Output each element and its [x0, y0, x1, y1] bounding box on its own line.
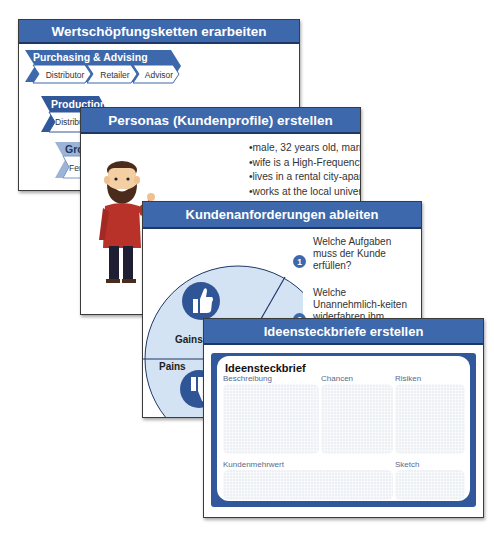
chain-item-distributor: Distributor: [41, 67, 89, 83]
idea-profile-card: Ideensteckbrief Beschreibung Chancen Ris…: [211, 353, 476, 507]
field-label-kundenmehrwert: Kundenmehrwert: [223, 460, 284, 469]
gains-label: Gains: [175, 334, 203, 345]
bullet: male, 32 years old, married, no children: [249, 141, 356, 156]
field-chancen[interactable]: [321, 384, 393, 454]
chain-title-purchasing: Purchasing & Advising: [25, 50, 148, 64]
slide-title: Kundenanforderungen ableiten: [143, 202, 421, 229]
bullet: works at the local univerity: makes a po…: [249, 185, 356, 200]
slide-title: Ideensteckbriefe erstellen: [204, 319, 483, 345]
card-title: Ideensteckbrief: [225, 362, 306, 374]
slide-title: Personas (Kundenprofile) erstellen: [81, 108, 360, 134]
field-label-chancen: Chancen: [321, 374, 353, 383]
field-label-beschreibung: Beschreibung: [223, 374, 272, 383]
bullet: wife is a High-Frequency Commuter: [249, 156, 356, 171]
field-sketch[interactable]: [395, 470, 465, 500]
slide-title: Wertschöpfungsketten erarbeiten: [19, 20, 299, 44]
field-kundenmehrwert[interactable]: [223, 470, 393, 500]
field-label-risiken: Risiken: [395, 374, 421, 383]
bullet: lives in a rental city-apartment with hi…: [249, 170, 356, 185]
chain-item-retailer: Retailer: [95, 67, 135, 83]
question-1: Welche Aufgaben muss der Kunde erfüllen?: [313, 236, 413, 272]
pains-label: Pains: [159, 361, 186, 372]
badge-1: 1: [293, 255, 306, 268]
slide-idea-profiles[interactable]: Ideensteckbriefe erstellen Ideensteckbri…: [203, 318, 484, 518]
chain-item-advisor: Advisor: [141, 67, 177, 83]
field-beschreibung[interactable]: [223, 384, 319, 454]
field-label-sketch: Sketch: [395, 460, 419, 469]
field-risiken[interactable]: [395, 384, 465, 454]
